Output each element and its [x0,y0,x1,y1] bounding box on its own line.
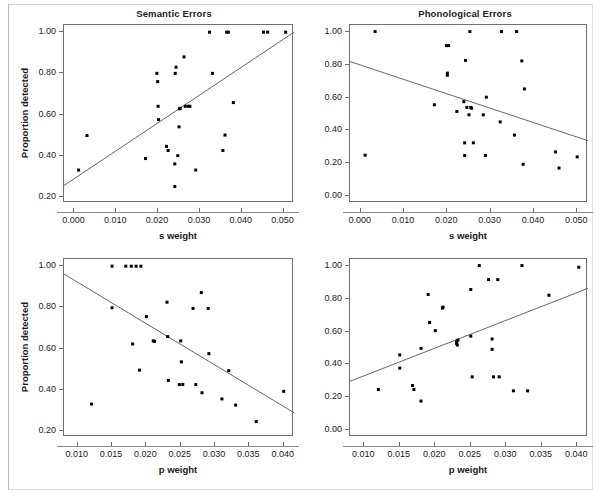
xtick-label: 0.040 [522,215,545,225]
data-point [446,74,449,77]
data-point [577,266,580,269]
scatter-canvas-bottom-right [350,259,588,437]
xtick-label: 0.015 [100,449,123,459]
xtick-label: 0.010 [104,215,127,225]
figure-root: Semantic Errors 0.200.400.600.801.000.00… [0,0,601,496]
xtick-label: 0.010 [392,215,415,225]
data-point [165,301,168,304]
xtick-label: 0.000 [62,215,85,225]
data-point [194,169,197,172]
xtick-mark [283,208,284,212]
data-point [232,101,235,104]
xaxis-title-bottom-left: p weight [159,464,198,475]
data-point [111,265,114,268]
data-point [472,141,475,144]
xtick-mark [490,208,491,212]
xtick-label: 0.025 [459,449,482,459]
xtick-label: 0.020 [435,215,458,225]
data-point [456,344,459,347]
data-point [211,72,214,75]
data-point [77,169,80,172]
trend-line [64,274,294,413]
xtick-mark [180,442,181,446]
xtick-label: 0.000 [349,215,372,225]
data-point [470,107,473,110]
ytick-label: 0.40 [309,358,342,368]
xtick-mark [399,442,400,446]
scatter-canvas-bottom-left [64,259,294,437]
data-point [220,397,223,400]
ytick-mark [345,162,349,163]
xtick-mark [541,442,542,446]
ytick-mark [59,155,63,156]
data-point [512,389,515,392]
xtick-label: 0.030 [203,449,226,459]
data-point [463,141,466,144]
data-point [221,149,224,152]
data-point [526,389,529,392]
xtick-mark [446,208,447,212]
ytick-mark [345,363,349,364]
ytick-label: 0.80 [309,59,342,69]
ytick-mark [345,31,349,32]
data-point [180,360,183,363]
xtick-mark [73,208,74,212]
ytick-label: 0.60 [309,92,342,102]
data-point [255,420,258,423]
data-point [155,72,158,75]
ytick-mark [345,298,349,299]
data-point [433,103,436,106]
data-point [208,31,211,34]
data-point [124,265,127,268]
xtick-mark [241,208,242,212]
data-point [463,154,466,157]
data-point [498,375,501,378]
data-point [145,315,148,318]
data-point [262,31,265,34]
xtick-label: 0.025 [168,449,191,459]
panel-title-top-left: Semantic Errors [59,8,289,19]
data-point [434,329,437,332]
data-point [234,404,237,407]
ytick-mark [345,265,349,266]
ytick-mark [59,430,63,431]
x-axis-line [57,446,299,447]
data-point [411,384,414,387]
data-point [192,307,195,310]
data-point [194,383,197,386]
panel-phonological-errors-p-weight: 0.000.200.400.600.801.000.0100.0150.0200… [305,250,595,490]
data-point [468,30,471,33]
xtick-mark [576,208,577,212]
data-point [156,80,159,83]
data-point [456,339,459,342]
data-point [496,278,499,281]
ytick-mark [59,72,63,73]
ytick-mark [345,129,349,130]
ytick-mark [345,396,349,397]
data-point [130,265,133,268]
data-point [377,388,380,391]
panel-semantic-errors-s-weight: Semantic Errors 0.200.400.600.801.000.00… [14,6,299,242]
data-point [178,383,181,386]
data-point [167,149,170,152]
data-point [499,120,502,123]
ytick-label: 1.00 [309,260,342,270]
data-point [412,388,415,391]
data-point [266,31,269,34]
ytick-mark [59,31,63,32]
data-point [86,134,89,137]
data-point [558,167,561,170]
data-point [207,307,210,310]
plot-area-top-right [349,24,587,202]
ytick-label: 0.20 [23,425,56,435]
xtick-label: 0.040 [565,449,588,459]
ytick-mark [59,389,63,390]
data-point [484,154,487,157]
ytick-label: 0.00 [309,424,342,434]
plot-area-bottom-right [349,258,587,436]
xtick-label: 0.015 [387,449,410,459]
xtick-mark [145,442,146,446]
data-point [455,110,458,113]
data-point [491,337,494,340]
data-point [469,288,472,291]
